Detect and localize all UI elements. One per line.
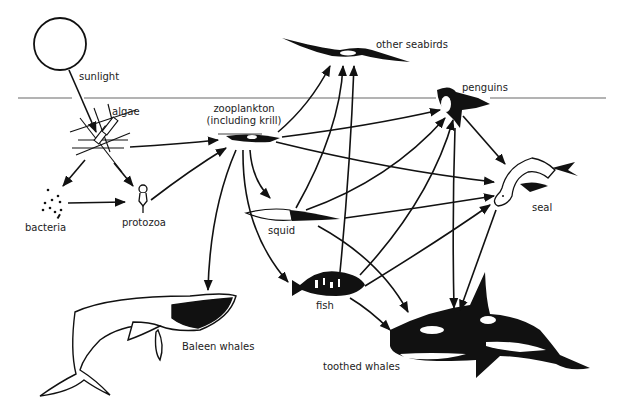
arrow-zooplankton-seal [276, 142, 494, 182]
label-sunlight: sunlight [79, 71, 119, 83]
label-seal: seal [532, 202, 552, 214]
label-fish: fish [316, 300, 334, 312]
food-web-diagram [0, 0, 622, 413]
label-algae: algae [112, 106, 140, 118]
label-squid: squid [268, 225, 295, 237]
orca-icon [390, 272, 590, 378]
arrow-penguins-seal [463, 116, 505, 164]
arrow-squid-seal [345, 196, 494, 218]
arrow-fish-penguins [360, 120, 453, 275]
arrow-protozoa-zooplankton [151, 148, 226, 200]
krill-icon [218, 134, 280, 142]
label-bacteria: bacteria [25, 222, 66, 234]
label-other-seabirds: other seabirds [376, 39, 448, 51]
label-zooplankton-line1: zooplankton [206, 103, 282, 115]
label-zooplankton-line2: (including krill) [206, 115, 282, 127]
arrow-algae-zooplankton [130, 140, 218, 147]
protozoa-icon [139, 185, 147, 213]
label-baleen-whales: Baleen whales [182, 341, 254, 353]
bacteria-icon [42, 189, 63, 219]
arrow-fish-seal [365, 205, 490, 286]
seal-icon [494, 158, 578, 206]
arrow-penguins-orca [453, 128, 455, 308]
fish-icon [292, 271, 365, 296]
arrow-zooplankton-squid [250, 150, 270, 198]
label-penguins: penguins [462, 82, 508, 94]
sun-icon [34, 18, 86, 70]
arrow-zooplankton-seabirds [278, 66, 330, 132]
arrow-squid-seabirds [296, 66, 343, 208]
arrow-algae-protozoa [114, 163, 133, 186]
label-protozoa: protozoa [122, 217, 166, 229]
label-zooplankton: zooplankton (including krill) [206, 103, 282, 127]
arrow-fish-seabirds [340, 66, 354, 272]
arrow-fish-orca [350, 298, 390, 330]
arrow-bacteria-protozoa [68, 202, 125, 203]
arrow-algae-bacteria [63, 160, 85, 186]
squid-icon [246, 209, 340, 221]
label-toothed-whales: toothed whales [323, 361, 400, 373]
arrow-zooplankton-penguins [282, 110, 440, 137]
arrow-zooplankton-baleen [208, 150, 236, 290]
